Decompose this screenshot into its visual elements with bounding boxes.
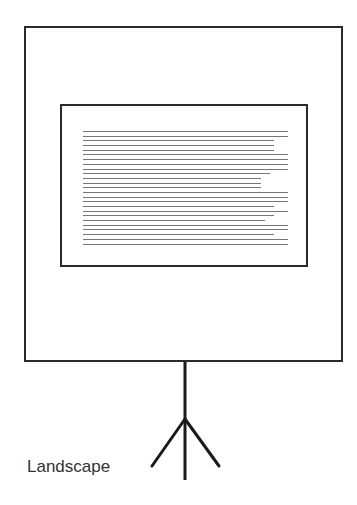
tripod-stand-icon (0, 0, 357, 505)
diagram-caption: Landscape (27, 457, 110, 477)
